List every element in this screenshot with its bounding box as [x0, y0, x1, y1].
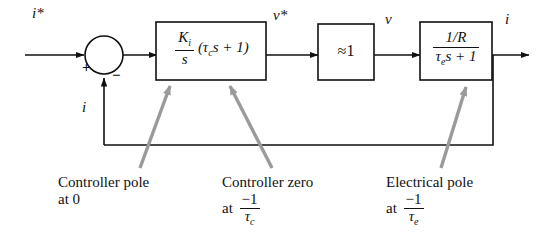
- plant-transfer-function: 1/R τes + 1: [420, 30, 492, 67]
- annotation-controller-zero-line1: Controller zero: [222, 174, 313, 190]
- label-plus-sign: +: [82, 60, 91, 76]
- annotation-controller-pole: Controller pole at 0: [58, 175, 149, 208]
- controller-zero-value-fraction: −1 τc: [240, 192, 260, 227]
- label-feedback-signal: i: [82, 100, 86, 116]
- electrical-pole-value-fraction: −1 τe: [404, 192, 424, 227]
- controller-gain-fraction: Ki s: [175, 30, 194, 67]
- annotation-controller-zero-line2: at −1 τc: [222, 192, 313, 227]
- pointer-controller-pole: [140, 86, 170, 168]
- label-controller-output: v*: [273, 8, 287, 24]
- annotation-electrical-pole: Electrical pole at −1 τe: [386, 175, 473, 227]
- annotation-controller-zero: Controller zero at −1 τc: [222, 175, 313, 227]
- block-diagram-figure: i* + − i v* v i Ki s (τcs + 1) ≈1 1/R τe…: [0, 0, 544, 252]
- converter-label: ≈1: [318, 43, 374, 60]
- label-minus-sign: −: [112, 68, 121, 84]
- controller-zero-factor: (τcs + 1): [198, 39, 249, 55]
- annotation-controller-pole-line1: Controller pole: [58, 174, 149, 190]
- label-output-signal: i: [505, 12, 509, 28]
- plant-fraction: 1/R τes + 1: [433, 30, 480, 67]
- annotation-controller-pole-line2: at 0: [58, 192, 149, 208]
- annotation-electrical-pole-line2: at −1 τe: [386, 192, 473, 227]
- label-reference-input: i*: [32, 6, 44, 22]
- pointer-controller-zero: [230, 86, 272, 168]
- pointer-electrical-pole: [441, 87, 466, 168]
- label-plant-input: v: [385, 12, 392, 28]
- controller-transfer-function: Ki s (τcs + 1): [160, 30, 264, 67]
- annotation-electrical-pole-line1: Electrical pole: [386, 174, 473, 190]
